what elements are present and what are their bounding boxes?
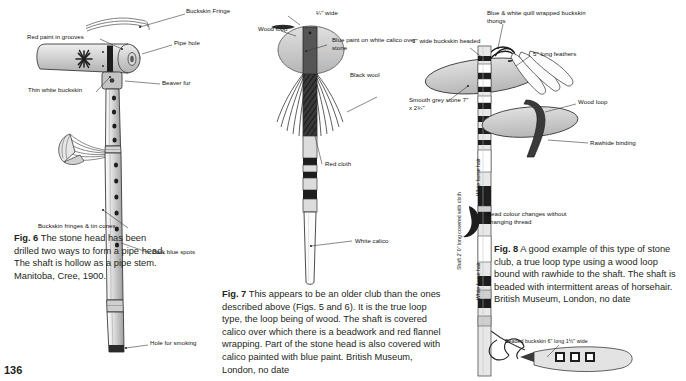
caption-fig7: Fig. 7 This appears to be an older club …: [222, 288, 444, 376]
label-white-calico: White calico: [355, 237, 388, 245]
fig7-wool-wrap: [303, 74, 317, 136]
fig7-banded-section: [303, 136, 317, 212]
caption-fig6: Fig. 6 The stone head has been drilled t…: [14, 232, 166, 282]
fig6-drawing: [37, 14, 185, 352]
caption-fig8-label: Fig. 8: [494, 244, 518, 254]
caption-fig7-text: This appears to be an older club than th…: [222, 289, 441, 375]
label-smooth-grey-stone: Smooth grey stone 7" x 2¾": [409, 96, 471, 111]
label-wood-loop-fig7: Wood loop: [258, 25, 287, 33]
fig8-bead-crescent: [463, 206, 480, 237]
caption-fig6-label: Fig. 6: [14, 233, 38, 243]
label-blue-white-quill-wrapped-thongs: Blue & white quill wrapped buckskin thon…: [487, 9, 597, 24]
page-number: 136: [4, 364, 22, 376]
label-quarter-inch-wide: ¼" wide: [316, 9, 338, 17]
label-black-wool: Black wool: [350, 71, 380, 79]
label-one-inch-wide-buckskin-beaded: 1" wide buckskin beaded: [412, 37, 484, 45]
label-pipe-hole: Pipe hole: [174, 39, 200, 47]
figure-page: Buckskin Fringe Red paint in grooves Pip…: [0, 0, 686, 381]
label-white-horse-hair-upper: White horse hair: [475, 158, 481, 196]
label-red-paint-in-grooves: Red paint in grooves: [27, 33, 84, 41]
label-white-horse-hair-lower: White horse hair: [475, 262, 481, 300]
fig8-detached-stone: [481, 104, 579, 141]
label-buckskin-fringes-tin-cones: Buckskin fringes & tin cones: [38, 222, 116, 230]
label-beaver-fur: Beaver fur: [162, 79, 191, 87]
label-five-inch-long-feathers: 5" long feathers: [533, 50, 576, 58]
label-buckskin-fringe: Buckskin Fringe: [186, 7, 230, 15]
label-bead-colour-changes: Bead colour changes without changing thr…: [487, 210, 587, 225]
label-beaded-buckskin-strap: Beaded buckskin 6" long 1½" wide: [505, 338, 588, 345]
label-rawhide-binding: Rawhide binding: [590, 139, 636, 147]
label-shaft-length-fig8: Shaft 2' 0" long covered with cloth: [456, 192, 462, 270]
label-hole-for-smoking: Hole for smoking: [150, 339, 197, 347]
caption-fig8-text: A good example of this type of stone clu…: [494, 244, 676, 304]
caption-fig7-label: Fig. 7: [222, 289, 246, 299]
fig6-fringe-bundle: [59, 134, 105, 165]
label-thin-white-buckskin: Thin white buckskin: [28, 86, 82, 94]
caption-fig8: Fig. 8 A good example of this type of st…: [494, 243, 680, 306]
fig6-starburst: [76, 51, 92, 68]
fig8-drawing: [424, 24, 633, 376]
label-wood-loop-fig8: Wood loop: [578, 98, 607, 106]
label-red-cloth: Red cloth: [325, 160, 351, 168]
fig7-white-calico-shaft: [304, 212, 316, 284]
